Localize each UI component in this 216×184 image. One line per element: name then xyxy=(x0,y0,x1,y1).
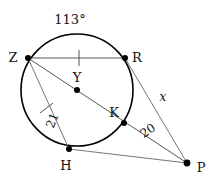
geometry-canvas: Z R Y K H P 113° 21 20 x xyxy=(0,0,216,184)
point-K xyxy=(121,120,127,126)
arc-measure-113: 113° xyxy=(54,12,85,27)
point-P xyxy=(184,160,191,167)
point-label-P: P xyxy=(197,160,206,175)
point-H xyxy=(66,146,72,152)
point-label-R: R xyxy=(132,50,143,65)
segment-RP xyxy=(125,58,187,163)
geometry-diagram: Z R Y K H P 113° 21 20 x xyxy=(0,0,216,184)
point-Y-center xyxy=(74,87,80,93)
unknown-length-x: x xyxy=(160,90,167,104)
point-label-Y: Y xyxy=(72,70,82,85)
congruence-tick-zh xyxy=(40,103,53,113)
point-label-Z: Z xyxy=(8,50,17,65)
point-R xyxy=(122,55,128,61)
point-Z xyxy=(25,55,31,61)
point-label-H: H xyxy=(60,158,71,173)
length-label-20: 20 xyxy=(138,121,158,141)
point-label-K: K xyxy=(109,105,119,120)
